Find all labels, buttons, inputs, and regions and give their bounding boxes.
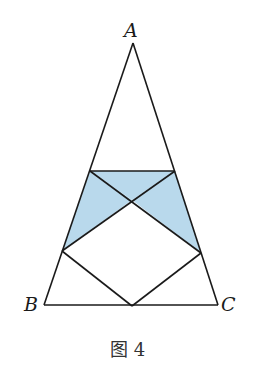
label-a: A bbox=[122, 19, 138, 41]
segment-fm bbox=[62, 251, 132, 306]
label-b: B bbox=[23, 293, 38, 315]
label-c: C bbox=[221, 293, 236, 315]
segment-gm bbox=[132, 253, 201, 306]
triangle-diagram: A B C 图 4 bbox=[0, 0, 263, 366]
figure-caption: 图 4 bbox=[110, 339, 145, 360]
